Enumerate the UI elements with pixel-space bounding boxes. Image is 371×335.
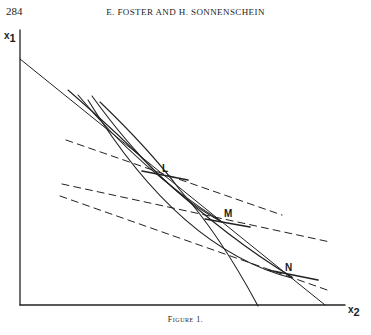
curve-inner — [100, 102, 258, 306]
curve-outer — [88, 100, 292, 278]
point-label-n: N — [285, 262, 292, 273]
point-label-m: M — [224, 208, 232, 219]
curve-upper — [68, 90, 292, 277]
dashed-line-m — [62, 184, 330, 242]
figure-caption: Figure 1. — [0, 315, 371, 324]
curve-lower — [92, 96, 222, 222]
figure-1-diagram — [0, 0, 371, 335]
point-label-l: L — [162, 163, 168, 174]
y-axis-label-sub: 1 — [10, 32, 16, 44]
dashed-line-n — [60, 196, 330, 291]
budget-line — [20, 59, 325, 305]
tangent-n — [268, 270, 318, 280]
y-axis-label: x1 — [4, 30, 16, 44]
